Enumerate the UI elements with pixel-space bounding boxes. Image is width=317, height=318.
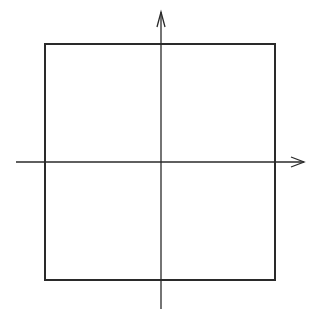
coordinate-diagram xyxy=(0,0,317,318)
